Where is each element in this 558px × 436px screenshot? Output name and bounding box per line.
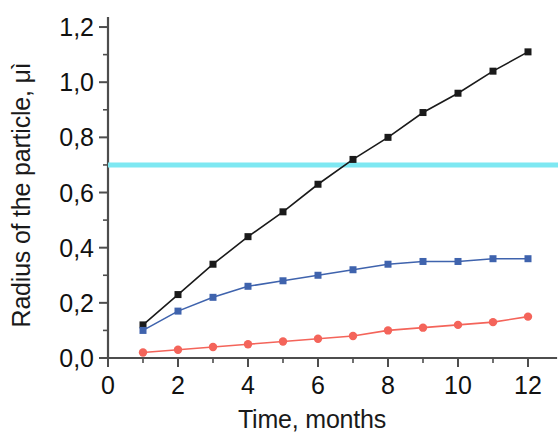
series-black-series (140, 48, 532, 328)
series-line (143, 259, 528, 331)
x-tick-label: 4 (241, 371, 255, 399)
plot-area: 0,00,20,40,60,81,01,2024681012Time, mont… (7, 13, 558, 433)
y-tick-label: 1,0 (59, 68, 94, 96)
chart-figure: 0,00,20,40,60,81,01,2024681012Time, mont… (0, 0, 558, 436)
data-point-marker (245, 283, 252, 290)
series-blue-series (140, 255, 532, 334)
data-point-marker (279, 337, 287, 345)
data-point-marker (140, 327, 147, 334)
data-point-marker (210, 294, 217, 301)
data-point-marker (315, 272, 322, 279)
series-line (143, 52, 528, 325)
data-point-marker (280, 208, 287, 215)
x-axis-title: Time, months (238, 405, 386, 433)
x-tick-label: 2 (171, 371, 185, 399)
data-point-marker (385, 261, 392, 268)
data-point-marker (350, 156, 357, 163)
y-tick-label: 0,6 (59, 179, 94, 207)
data-point-marker (175, 291, 182, 298)
chart-canvas: 0,00,20,40,60,81,01,2024681012Time, mont… (0, 0, 558, 436)
data-point-marker (244, 340, 252, 348)
data-point-marker (524, 312, 532, 320)
x-tick-label: 6 (311, 371, 325, 399)
axis-frame (108, 18, 556, 358)
data-point-marker (139, 348, 147, 356)
y-tick-label: 0,8 (59, 123, 94, 151)
data-point-marker (455, 90, 462, 97)
data-point-marker (280, 277, 287, 284)
y-tick-label: 1,2 (59, 13, 94, 41)
data-point-marker (385, 134, 392, 141)
data-point-marker (350, 266, 357, 273)
data-point-marker (489, 318, 497, 326)
data-point-marker (455, 258, 462, 265)
y-tick-label: 0,2 (59, 289, 94, 317)
data-point-marker (349, 332, 357, 340)
data-point-marker (174, 346, 182, 354)
data-point-marker (315, 181, 322, 188)
data-point-marker (525, 48, 532, 55)
data-point-marker (490, 68, 497, 75)
data-point-marker (420, 109, 427, 116)
data-point-marker (384, 326, 392, 334)
x-tick-label: 0 (101, 371, 115, 399)
data-point-marker (245, 233, 252, 240)
y-tick-label: 0,4 (59, 234, 94, 262)
data-point-marker (490, 255, 497, 262)
x-tick-label: 12 (514, 371, 542, 399)
x-tick-label: 10 (444, 371, 472, 399)
data-point-marker (209, 343, 217, 351)
data-point-marker (454, 321, 462, 329)
series-red-series (139, 312, 532, 356)
x-tick-label: 8 (381, 371, 395, 399)
data-point-marker (525, 255, 532, 262)
y-axis-title: Radius of the particle, μì (7, 63, 35, 328)
data-point-marker (314, 334, 322, 342)
y-tick-label: 0,0 (59, 344, 94, 372)
data-point-marker (420, 258, 427, 265)
data-point-marker (210, 261, 217, 268)
data-point-marker (175, 308, 182, 315)
series-line (143, 317, 528, 353)
data-point-marker (419, 323, 427, 331)
